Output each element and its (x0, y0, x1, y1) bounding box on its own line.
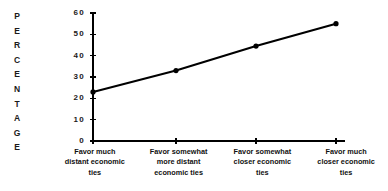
x-category-label-2-line2: closer economic (222, 157, 304, 167)
data-point-3 (333, 21, 338, 26)
data-point-0 (90, 89, 95, 94)
x-category-label-3-line3: ties (305, 168, 387, 178)
series-line (93, 24, 336, 92)
x-category-label-2-line1: Favor somewhat (222, 147, 304, 157)
x-category-label-0-line3: ties (54, 168, 136, 178)
x-category-label-0-line2: distant economic (54, 157, 136, 167)
data-point-1 (173, 68, 178, 73)
data-series (90, 21, 338, 94)
x-category-label-1-line2: more distant (138, 157, 220, 167)
x-category-label-1-line3: economic ties (138, 168, 220, 178)
x-category-label-0: Favor muchdistant economicties (53, 147, 137, 178)
x-category-label-2-line3: ties (222, 168, 304, 178)
x-category-label-3: Favor muchcloser economicties (304, 147, 388, 178)
x-category-label-3-line1: Favor much (305, 147, 387, 157)
x-category-label-2: Favor somewhatcloser economicties (221, 147, 305, 178)
x-category-label-1: Favor somewhatmore distanteconomic ties (137, 147, 221, 178)
line-chart: PERCENTAGE 0102030405060 Favor muchdista… (0, 0, 388, 191)
x-category-label-1-line1: Favor somewhat (138, 147, 220, 157)
x-category-label-0-line1: Favor much (54, 147, 136, 157)
x-axis-category-labels: Favor muchdistant economictiesFavor some… (53, 147, 388, 189)
x-category-label-3-line2: closer economic (305, 157, 387, 167)
data-point-2 (253, 43, 258, 48)
